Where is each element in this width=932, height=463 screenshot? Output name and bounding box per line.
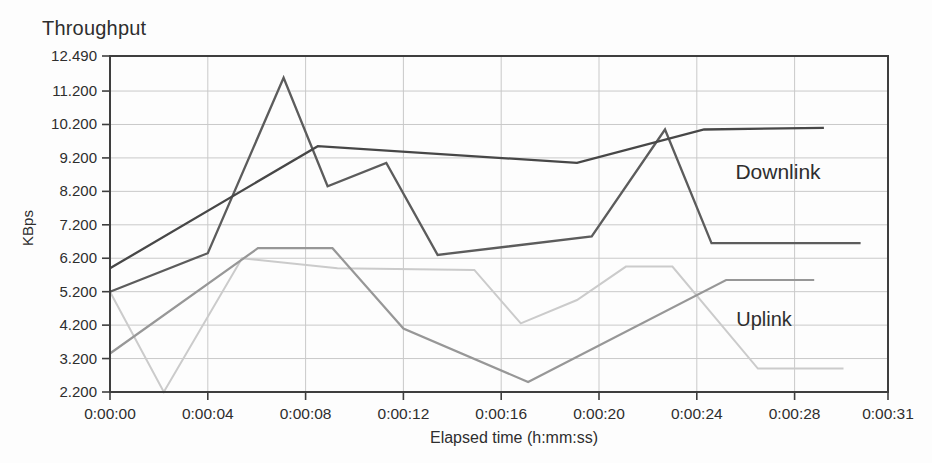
chart-canvas: 12.49011.20010.2009.2008.2007.2006.2005.…: [0, 0, 932, 463]
y-tick-label: 10.200: [51, 115, 97, 132]
y-tick-label: 9.200: [59, 149, 97, 166]
x-tick-label: 0:00:00: [84, 405, 136, 422]
x-tick-label: 0:00:16: [475, 405, 527, 422]
x-tick-label: 0:00:08: [280, 405, 332, 422]
downlink-series-label: Downlink: [735, 160, 821, 183]
series-line-downlink-average: [110, 128, 824, 268]
chart-title: Throughput: [42, 17, 147, 39]
throughput-line-chart: 12.49011.20010.2009.2008.2007.2006.2005.…: [0, 0, 932, 463]
y-axis-title: KBps: [19, 210, 36, 246]
y-tick-label: 5.200: [59, 283, 97, 300]
y-tick-label: 12.490: [51, 47, 97, 64]
y-tick-label: 11.200: [52, 82, 97, 99]
y-tick-label: 2.200: [59, 383, 97, 400]
y-tick-label: 8.200: [59, 182, 97, 199]
uplink-series-label: Uplink: [736, 308, 793, 330]
y-tick-label: 4.200: [59, 316, 97, 333]
x-tick-label: 0:00:20: [573, 405, 625, 422]
series-line-uplink-average: [110, 248, 814, 382]
x-tick-label: 0:00:31: [862, 405, 914, 422]
plot-border: [110, 56, 888, 392]
x-axis-title: Elapsed time (h:mm:ss): [430, 429, 598, 446]
y-tick-label: 6.200: [59, 249, 97, 266]
y-tick-label: 3.200: [59, 350, 97, 367]
x-tick-label: 0:00:12: [378, 405, 430, 422]
axis-layer: 12.49011.20010.2009.2008.2007.2006.2005.…: [51, 47, 914, 422]
grid-layer: [110, 56, 888, 392]
y-tick-label: 7.200: [59, 216, 97, 233]
x-tick-label: 0:00:04: [182, 405, 234, 422]
series-line-downlink-instantaneous: [110, 78, 861, 292]
x-tick-label: 0:00:24: [671, 405, 723, 422]
x-tick-label: 0:00:28: [769, 405, 821, 422]
